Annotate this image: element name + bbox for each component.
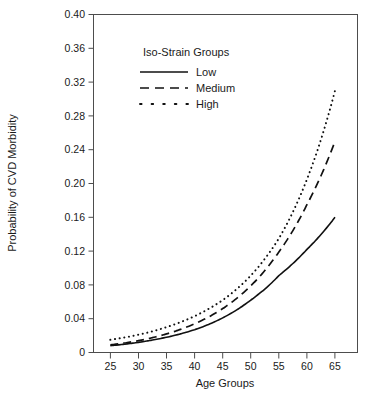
x-tick-label-55: 55	[273, 360, 285, 372]
series-line-low	[110, 217, 335, 345]
chart-figure: 0.40 0.36 0.32 0.28 0.24 0.20 0.16 0.12 …	[0, 0, 387, 394]
x-tick-label-50: 50	[245, 360, 257, 372]
y-tick-label-0.36: 0.36	[65, 42, 86, 54]
y-tick-label-0.28: 0.28	[65, 110, 86, 122]
x-axis-title: Age Groups	[196, 377, 255, 389]
y-tick-label-0.12: 0.12	[65, 245, 86, 257]
x-tick-label-65: 65	[329, 360, 341, 372]
legend-label-medium: Medium	[196, 82, 235, 94]
cvd-morbidity-line-chart: 0.40 0.36 0.32 0.28 0.24 0.20 0.16 0.12 …	[0, 0, 387, 394]
y-tick-label-0.24: 0.24	[65, 143, 86, 155]
legend-label-low: Low	[196, 66, 216, 78]
y-tick-label-0: 0	[79, 346, 85, 358]
x-tick-label-45: 45	[217, 360, 229, 372]
y-axis-title: Probability of CVD Morbidity	[6, 114, 18, 252]
data-series-group	[110, 91, 335, 346]
y-axis-tick-labels: 0.40 0.36 0.32 0.28 0.24 0.20 0.16 0.12 …	[65, 8, 86, 358]
series-line-high	[110, 91, 335, 340]
x-tick-label-30: 30	[133, 360, 145, 372]
legend-label-high: High	[196, 98, 219, 110]
x-tick-label-40: 40	[189, 360, 201, 372]
y-tick-label-0.32: 0.32	[65, 76, 86, 88]
y-tick-label-0.08: 0.08	[65, 279, 86, 291]
y-tick-label-0.20: 0.20	[65, 177, 86, 189]
x-axis-tick-labels: 25 30 35 40 45 50 55 60 65	[105, 360, 341, 372]
legend-title: Iso-Strain Groups	[143, 46, 230, 58]
series-line-medium	[110, 141, 335, 345]
chart-legend: Iso-Strain Groups Low Medium High	[140, 46, 235, 110]
x-tick-label-60: 60	[301, 360, 313, 372]
x-axis-ticks	[110, 353, 335, 359]
y-axis-ticks	[89, 15, 94, 353]
y-tick-label-0.04: 0.04	[65, 312, 86, 324]
x-tick-label-35: 35	[161, 360, 173, 372]
y-tick-label-0.16: 0.16	[65, 211, 86, 223]
y-tick-label-0.40: 0.40	[65, 8, 86, 20]
x-tick-label-25: 25	[105, 360, 117, 372]
